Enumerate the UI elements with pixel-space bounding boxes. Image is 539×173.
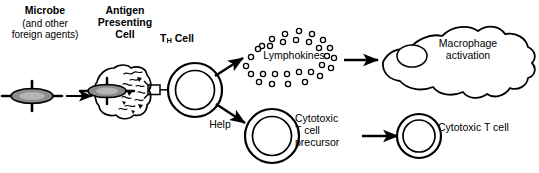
label-lymphokines: Lymphokines	[248, 50, 340, 62]
label-cytotoxic-t-cell: Cytotoxic T cell	[438, 122, 534, 134]
label-t-helper-cell: TH Cell	[160, 33, 220, 45]
label-macrophage-activation: Macrophage activation	[424, 38, 512, 62]
microbe-antigen	[2, 81, 62, 111]
cytotoxic-t-cell	[397, 114, 441, 158]
arrow-th-to-lymphokines	[215, 58, 243, 76]
label-microbe-title: Microbe	[2, 5, 88, 17]
label-help: Help	[203, 119, 237, 131]
label-th-rest: Cell	[172, 32, 194, 44]
t-helper-cell	[168, 63, 222, 117]
label-antigen-presenting-cell: Antigen Presenting Cell	[84, 5, 166, 40]
label-th-subscript: H	[166, 36, 171, 45]
label-microbe-subtitle: (and other foreign agents)	[0, 18, 90, 40]
cytotoxic-t-cell-precursor	[245, 109, 299, 163]
antigen-presenting-cell	[80, 65, 167, 119]
label-cytotoxic-t-cell-precursor: Cytotoxic T cell precursor	[295, 113, 357, 148]
mhc-peptide-receptor	[144, 81, 167, 99]
macrophage-nucleus	[397, 45, 427, 67]
immune-response-diagram: Microbe (and other foreign agents) Antig…	[0, 0, 539, 173]
